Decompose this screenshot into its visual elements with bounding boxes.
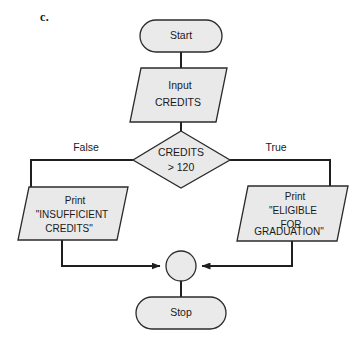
flowchart-diagram: c. Start Input CREDI (0, 0, 354, 340)
connector-true-to-merge (202, 241, 292, 266)
node-merge-circle (166, 251, 196, 281)
branch-label-false: False (73, 141, 99, 153)
stop-label: Stop (170, 306, 192, 318)
decision-shape (133, 131, 230, 188)
input-label-line2: CREDITS (155, 96, 201, 108)
node-print-eligible: Print "ELIGIBLE FOR GRADUATION" (237, 186, 348, 241)
flowchart-canvas: Start Input CREDITS CREDITS > 120 False … (0, 0, 354, 340)
print-true-line2: "ELIGIBLE (269, 205, 317, 216)
decision-label-line1: CREDITS (158, 146, 204, 158)
connector-decision-true (230, 160, 330, 187)
start-label: Start (170, 29, 192, 41)
node-stop: Stop (136, 297, 226, 329)
print-true-line1: Print (285, 191, 306, 202)
node-input: Input CREDITS (130, 68, 227, 122)
branch-label-true: True (265, 141, 286, 153)
decision-label-line2: > 120 (168, 161, 195, 173)
print-false-line3: CREDITS" (45, 223, 93, 234)
print-true-line4: GRADUATION" (254, 226, 324, 237)
input-label-line1: Input (168, 79, 191, 91)
part-label: c. (40, 10, 49, 25)
connector-decision-false (31, 160, 133, 187)
merge-circle-shape (166, 251, 196, 281)
node-decision: CREDITS > 120 (133, 131, 230, 188)
print-false-line1: Print (65, 195, 86, 206)
node-start: Start (140, 20, 222, 52)
print-false-line2: "INSUFFICIENT (36, 209, 108, 220)
connector-false-to-merge (62, 240, 160, 266)
node-print-insufficient: Print "INSUFFICIENT CREDITS" (18, 187, 128, 240)
